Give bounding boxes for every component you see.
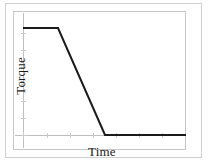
y-axis-label: Torque xyxy=(14,57,27,95)
plot-canvas xyxy=(0,0,208,166)
x-axis-label: Time xyxy=(88,145,116,158)
torque-curve xyxy=(23,28,186,135)
chart-screenshot: Torque Time xyxy=(0,0,208,166)
